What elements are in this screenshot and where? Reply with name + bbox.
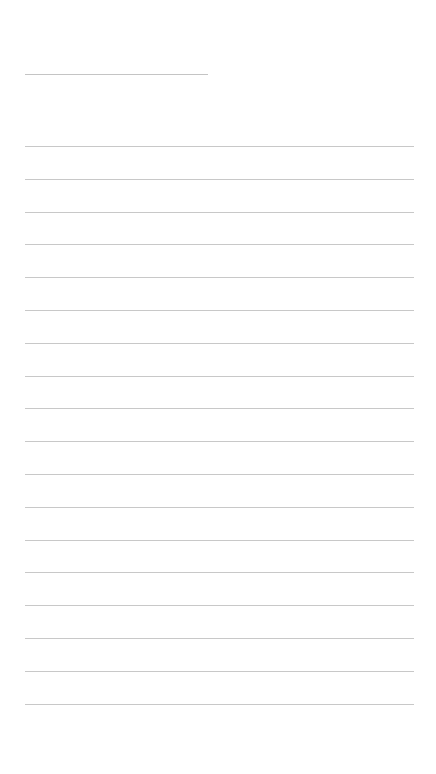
ruled-line [25, 212, 414, 213]
ruled-line [25, 540, 414, 541]
ruled-line [25, 441, 414, 442]
ruled-line [25, 179, 414, 180]
ruled-line [25, 704, 414, 705]
ruled-line [25, 572, 414, 573]
ruled-line [25, 146, 414, 147]
ruled-line [25, 310, 414, 311]
ruled-line [25, 638, 414, 639]
ruled-line [25, 671, 414, 672]
lined-page [0, 0, 436, 774]
ruled-line [25, 376, 414, 377]
title-line [25, 74, 208, 75]
ruled-line [25, 474, 414, 475]
ruled-line [25, 277, 414, 278]
ruled-line [25, 507, 414, 508]
ruled-line [25, 605, 414, 606]
ruled-line [25, 343, 414, 344]
ruled-line [25, 408, 414, 409]
ruled-line [25, 244, 414, 245]
